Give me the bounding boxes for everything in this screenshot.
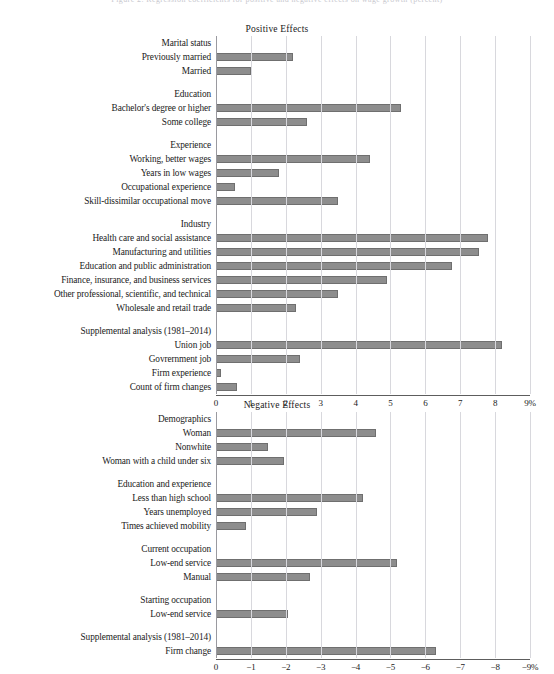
plot-area-positive: Marital statusPreviously marriedMarriedE…: [0, 36, 554, 394]
bar: [216, 443, 268, 451]
bar-track: [216, 166, 554, 180]
bar-label: Health care and social assistance: [0, 233, 216, 244]
group-label: Industry: [0, 219, 216, 230]
bar: [216, 155, 370, 163]
category-group-header: Marital status: [0, 36, 554, 50]
bar-label: Manual: [0, 572, 216, 583]
bar-row: Some college: [0, 115, 554, 129]
x-axis-tick: −2: [281, 662, 290, 672]
bar-track: [216, 287, 554, 301]
bar-label: Other professional, scientific, and tech…: [0, 289, 216, 300]
row-spacer: [0, 208, 554, 217]
bar-row: Other professional, scientific, and tech…: [0, 287, 554, 301]
bar-rows-positive: Marital statusPreviously marriedMarriedE…: [0, 36, 554, 394]
row-spacer: [0, 584, 554, 593]
x-axis-tick: −7: [456, 662, 465, 672]
bar-row: Union job: [0, 338, 554, 352]
group-label: Experience: [0, 140, 216, 151]
bar-label: Skill-dissimilar occupational move: [0, 196, 216, 207]
bar-track: [216, 194, 554, 208]
bar: [216, 276, 387, 284]
bar-label: Married: [0, 66, 216, 77]
bar-track: [216, 630, 554, 644]
bar-row: Previously married: [0, 50, 554, 64]
group-label: Demographics: [0, 414, 216, 425]
bar: [216, 183, 235, 191]
bar-row: Govrernment job: [0, 352, 554, 366]
bar-label: Education and public administration: [0, 261, 216, 272]
bar-track: [216, 644, 554, 658]
bar-label: Woman: [0, 428, 216, 439]
bar-track: [216, 426, 554, 440]
bar-track: [216, 245, 554, 259]
group-label: Current occupation: [0, 544, 216, 555]
bar-track: [216, 180, 554, 194]
bar: [216, 494, 363, 502]
bar-track: [216, 352, 554, 366]
bar-row: Finance, insurance, and business service…: [0, 273, 554, 287]
group-label: Supplemental analysis (1981–2014): [0, 326, 216, 337]
category-group-header: Industry: [0, 217, 554, 231]
bar-track: [216, 259, 554, 273]
row-spacer: [0, 468, 554, 477]
x-axis-negative: 0−1−2−3−4−5−6−7−8−9%: [0, 659, 554, 674]
x-axis-tick: −6: [421, 662, 430, 672]
bar-row: Years unemployed: [0, 505, 554, 519]
bar-row: Wholesale and retail trade: [0, 301, 554, 315]
bar: [216, 647, 436, 655]
axis-line: [216, 395, 530, 396]
bar-track: [216, 152, 554, 166]
bar-label: Nonwhite: [0, 442, 216, 453]
bar-track: [216, 607, 554, 621]
x-axis-tick: −4: [351, 662, 360, 672]
bar: [216, 169, 279, 177]
bar-label: Wholesale and retail trade: [0, 303, 216, 314]
bar: [216, 118, 307, 126]
x-axis-tick: −9%: [522, 662, 538, 672]
bar-label: Working, better wages: [0, 154, 216, 165]
bar-row: Times achieved mobility: [0, 519, 554, 533]
row-spacer: [0, 129, 554, 138]
category-group-header: Supplemental analysis (1981–2014): [0, 630, 554, 644]
bar-row: Nonwhite: [0, 440, 554, 454]
bar-row: Years in low wages: [0, 166, 554, 180]
bar: [216, 559, 397, 567]
bar-label: Woman with a child under six: [0, 456, 216, 467]
plot-area-negative: DemographicsWomanNonwhiteWoman with a ch…: [0, 412, 554, 658]
bar-row: Low-end service: [0, 556, 554, 570]
bar-label: Union job: [0, 340, 216, 351]
bar-track: [216, 338, 554, 352]
category-group-header: Supplemental analysis (1981–2014): [0, 324, 554, 338]
bar: [216, 610, 288, 618]
bar-label: Count of firm changes: [0, 382, 216, 393]
row-spacer: [0, 315, 554, 324]
x-axis-tick: 0: [214, 662, 218, 672]
bar-rows-negative: DemographicsWomanNonwhiteWoman with a ch…: [0, 412, 554, 658]
bar-track: [216, 36, 554, 50]
bar: [216, 197, 338, 205]
bar-row: Manual: [0, 570, 554, 584]
bar-label: Previously married: [0, 52, 216, 63]
bar-label: Times achieved mobility: [0, 521, 216, 532]
chart-positive-effects: Positive Effects Marital statusPreviousl…: [0, 22, 554, 390]
bar-track: [216, 138, 554, 152]
bar-track: [216, 491, 554, 505]
bar: [216, 429, 376, 437]
bar-row: Skill-dissimilar occupational move: [0, 194, 554, 208]
bar-row: Low-end service: [0, 607, 554, 621]
bar-label: Some college: [0, 117, 216, 128]
bar-row: Married: [0, 64, 554, 78]
bar-label: Years in low wages: [0, 168, 216, 179]
bar-row: Less than high school: [0, 491, 554, 505]
bar-label: Occupational experience: [0, 182, 216, 193]
figure-caption-text: Figure 2. Regression coefficients for po…: [111, 0, 442, 4]
bar-track: [216, 101, 554, 115]
bar-label: Govrernment job: [0, 354, 216, 365]
axis-line: [216, 659, 530, 660]
bar-label: Low-end service: [0, 609, 216, 620]
bar-track: [216, 115, 554, 129]
bar-track: [216, 519, 554, 533]
category-group-header: Starting occupation: [0, 593, 554, 607]
bar: [216, 67, 251, 75]
bar-track: [216, 301, 554, 315]
